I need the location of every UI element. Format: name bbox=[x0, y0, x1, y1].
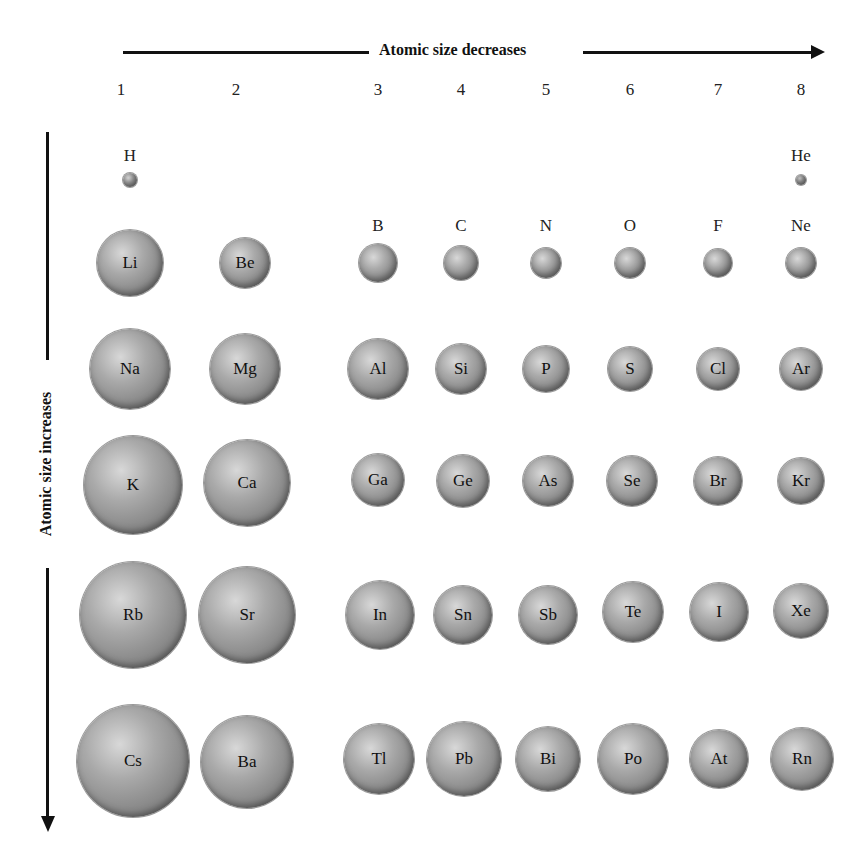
element-symbol: Se bbox=[624, 471, 641, 491]
atom-in: In bbox=[346, 581, 414, 649]
element-symbol: Tl bbox=[371, 749, 386, 769]
atom-be: Be bbox=[220, 238, 270, 288]
group-number-4: 4 bbox=[457, 80, 466, 100]
element-label-o: O bbox=[624, 216, 636, 236]
atom-ar: Ar bbox=[780, 348, 822, 390]
atom-i: I bbox=[690, 583, 748, 641]
atom-as: As bbox=[523, 456, 573, 506]
atom-k: K bbox=[84, 436, 182, 534]
group-number-6: 6 bbox=[626, 80, 635, 100]
arrow-down-icon bbox=[41, 816, 55, 832]
element-symbol: Kr bbox=[792, 471, 810, 491]
atom-pb: Pb bbox=[427, 722, 501, 796]
element-symbol: Ba bbox=[238, 752, 257, 772]
atom-f bbox=[704, 249, 732, 277]
element-symbol: Sn bbox=[454, 605, 472, 625]
vertical-arrow-top-segment bbox=[46, 132, 49, 360]
vertical-axis-title: Atomic size increases bbox=[37, 385, 55, 543]
atom-he bbox=[796, 175, 806, 185]
atom-na: Na bbox=[90, 329, 170, 409]
group-number-3: 3 bbox=[374, 80, 383, 100]
element-symbol: Ga bbox=[368, 470, 388, 490]
element-symbol: In bbox=[373, 605, 387, 625]
element-symbol: Be bbox=[236, 253, 255, 273]
atom-o bbox=[615, 248, 645, 278]
atom-sr: Sr bbox=[199, 567, 295, 663]
atom-s: S bbox=[608, 347, 652, 391]
atom-sn: Sn bbox=[434, 586, 492, 644]
atom-li: Li bbox=[97, 230, 163, 296]
element-symbol: K bbox=[127, 475, 139, 495]
vertical-arrow-bottom-segment bbox=[46, 568, 49, 818]
element-symbol: Si bbox=[454, 359, 468, 379]
atom-si: Si bbox=[436, 344, 486, 394]
atom-p: P bbox=[523, 346, 569, 392]
element-symbol: Sr bbox=[239, 605, 254, 625]
atom-cl: Cl bbox=[697, 348, 739, 390]
element-symbol: Sb bbox=[539, 605, 557, 625]
element-symbol: Mg bbox=[233, 359, 257, 379]
atom-at: At bbox=[690, 730, 748, 788]
element-symbol: I bbox=[716, 602, 722, 622]
element-symbol: Ar bbox=[792, 359, 810, 379]
horizontal-arrow-left-segment bbox=[123, 51, 369, 54]
atom-te: Te bbox=[603, 582, 663, 642]
element-symbol: Br bbox=[710, 471, 727, 491]
horizontal-axis-title: Atomic size decreases bbox=[379, 41, 526, 59]
element-symbol: Al bbox=[370, 359, 387, 379]
atom-ba: Ba bbox=[201, 716, 293, 808]
atom-ne bbox=[786, 248, 816, 278]
element-symbol: Po bbox=[624, 749, 642, 769]
element-symbol: Xe bbox=[791, 601, 811, 621]
atom-se: Se bbox=[607, 456, 657, 506]
element-symbol: Cs bbox=[124, 751, 142, 771]
element-label-f: F bbox=[713, 216, 722, 236]
atom-sb: Sb bbox=[519, 586, 577, 644]
atom-xe: Xe bbox=[774, 584, 828, 638]
atom-br: Br bbox=[694, 457, 742, 505]
element-symbol: As bbox=[539, 471, 558, 491]
atom-ge: Ge bbox=[437, 455, 489, 507]
atom-tl: Tl bbox=[344, 724, 414, 794]
atom-c bbox=[444, 246, 478, 280]
element-label-ne: Ne bbox=[791, 216, 811, 236]
atom-po: Po bbox=[598, 724, 668, 794]
group-number-7: 7 bbox=[714, 80, 723, 100]
element-label-c: C bbox=[455, 216, 466, 236]
atom-rb: Rb bbox=[80, 562, 186, 668]
atom-al: Al bbox=[348, 339, 408, 399]
element-symbol: S bbox=[625, 359, 634, 379]
element-symbol: Li bbox=[122, 253, 137, 273]
element-symbol: Rb bbox=[123, 605, 143, 625]
atom-bi: Bi bbox=[516, 727, 580, 791]
atom-mg: Mg bbox=[210, 334, 280, 404]
element-symbol: Pb bbox=[455, 749, 473, 769]
element-symbol: At bbox=[711, 749, 728, 769]
arrow-right-icon bbox=[811, 45, 825, 59]
group-number-5: 5 bbox=[542, 80, 551, 100]
atom-b bbox=[359, 244, 397, 282]
element-symbol: Te bbox=[625, 602, 642, 622]
element-symbol: Bi bbox=[540, 749, 556, 769]
element-symbol: P bbox=[541, 359, 550, 379]
group-number-8: 8 bbox=[797, 80, 806, 100]
element-symbol: Na bbox=[120, 359, 140, 379]
element-label-h: H bbox=[124, 146, 136, 166]
group-number-2: 2 bbox=[232, 80, 241, 100]
atom-ga: Ga bbox=[352, 454, 404, 506]
atom-cs: Cs bbox=[77, 705, 189, 817]
element-symbol: Ca bbox=[238, 473, 257, 493]
group-number-1: 1 bbox=[117, 80, 126, 100]
element-label-b: B bbox=[372, 216, 383, 236]
element-label-he: He bbox=[791, 146, 811, 166]
element-symbol: Ge bbox=[453, 471, 473, 491]
element-symbol: Cl bbox=[710, 359, 726, 379]
element-label-n: N bbox=[540, 216, 552, 236]
element-symbol: Rn bbox=[792, 749, 812, 769]
horizontal-arrow-right-segment bbox=[583, 51, 813, 54]
atom-kr: Kr bbox=[778, 458, 824, 504]
atom-n bbox=[531, 248, 561, 278]
atom-ca: Ca bbox=[204, 440, 290, 526]
atom-rn: Rn bbox=[771, 728, 833, 790]
atom-h bbox=[123, 173, 137, 187]
